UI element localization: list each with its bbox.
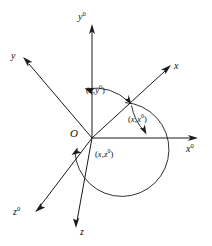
x0-axis-label-sup: 0 (190, 142, 193, 149)
angle-x-y0-close: ) (102, 85, 105, 95)
z0-axis-label: z0 (13, 206, 20, 217)
y-axis-line (29, 64, 92, 138)
y-axis-label: y (11, 50, 15, 61)
axes-diagram-svg (0, 0, 212, 246)
y0-axis-label: y0 (78, 11, 86, 22)
angle-label-x-y0: (x,y0) (86, 85, 105, 94)
z0-axis-arrowhead (35, 203, 45, 212)
angle-arc-x-z0 (72, 103, 169, 197)
x0-axis-label: x0 (186, 143, 194, 154)
z-axis-line (77, 138, 92, 221)
angle-arc-x-z0-path (75, 103, 169, 197)
z-axis-label-base: z (80, 226, 84, 237)
x0-axis-group (92, 135, 198, 141)
y-axis-group (23, 57, 92, 138)
z0-axis-group (35, 138, 92, 212)
coordinate-axes-figure: O y0 x0 z0 y x z (x,y0) (x,x0) (x,z0) (0, 0, 212, 246)
angle-label-x-z0: (x,z0) (95, 149, 113, 158)
x-axis-label: x (174, 60, 178, 71)
angle-x-z0-close: ) (110, 149, 113, 159)
origin-label: O (70, 128, 78, 139)
angle-label-x-x0: (x,x0) (128, 114, 147, 123)
z0-axis-label-sup: 0 (17, 205, 20, 212)
angle-arc-x-x0-arrow-end (140, 124, 147, 134)
y-axis-label-base: y (11, 50, 15, 61)
z-axis-arrowhead (73, 218, 79, 228)
angle-x-x0-close: ) (144, 114, 147, 124)
y0-axis-label-sup: 0 (82, 10, 85, 17)
z-axis-label: z (80, 226, 84, 237)
x-axis-line (92, 71, 165, 138)
x-axis-label-base: x (174, 60, 178, 71)
y0-axis-group (89, 24, 95, 138)
x-axis-group (92, 65, 171, 138)
z0-axis-line (41, 138, 92, 205)
y-axis-arrowhead (23, 57, 32, 67)
